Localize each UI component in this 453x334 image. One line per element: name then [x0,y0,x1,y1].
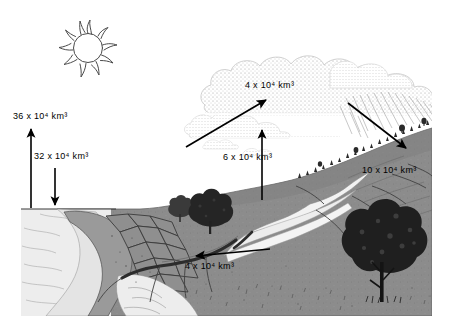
water-cycle-figure: 36 x 10⁴ km³ 32 x 10⁴ km³ 4 x 10⁴ km³ 6 … [0,0,453,334]
label-precipitation-ocean: 32 x 10⁴ km³ [34,152,88,161]
label-evapotranspiration-land: 6 x 10⁴ km³ [223,153,272,162]
label-precipitation-land: 10 x 10⁴ km³ [362,166,416,175]
label-runoff: 4 x 10⁴ km³ [185,262,234,271]
label-vapor-transport: 4 x 10⁴ km³ [245,81,294,90]
label-evaporation-ocean: 36 x 10⁴ km³ [13,112,67,121]
